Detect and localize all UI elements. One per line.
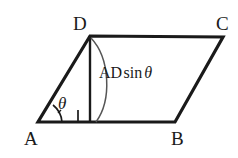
altitude-label-function: sin xyxy=(124,64,143,81)
altitude-label: ADsinθ xyxy=(99,65,152,81)
vertex-label-b: B xyxy=(171,129,184,148)
geometry-figure: D C A B θ ADsinθ xyxy=(0,0,238,158)
right-angle-marker-icon xyxy=(78,110,90,122)
vertex-label-c: C xyxy=(216,14,229,33)
altitude-label-variable: θ xyxy=(144,64,152,81)
angle-label-theta: θ xyxy=(58,95,66,112)
vertex-label-a: A xyxy=(24,129,38,148)
altitude-label-segment: AD xyxy=(99,64,122,81)
vertex-label-d: D xyxy=(73,14,87,33)
